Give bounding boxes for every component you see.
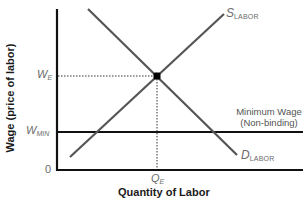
minimum-wage-annotation: Minimum Wage (Non-binding): [234, 106, 304, 128]
x-axis-title: Quantity of Labor: [118, 186, 210, 198]
equilibrium-quantity-label-main: Q: [151, 172, 160, 184]
demand-curve-label: DLABOR: [241, 148, 274, 162]
minimum-wage-annotation-line1: Minimum Wage: [234, 106, 304, 117]
demand-curve: [88, 9, 237, 155]
minimum-wage-annotation-line2: (Non-binding): [234, 117, 304, 128]
supply-curve-label: SLABOR: [226, 6, 259, 20]
y-axis-title: Wage (price of labor): [4, 38, 16, 158]
demand-curve-label-main: D: [241, 148, 250, 162]
equilibrium-point: [154, 73, 161, 80]
origin-label: 0: [45, 163, 51, 175]
equilibrium-wage-label: WE: [37, 68, 52, 81]
equilibrium-wage-label-sub: E: [47, 74, 52, 81]
supply-curve: [70, 14, 224, 157]
supply-curve-label-sub: LABOR: [234, 13, 259, 20]
minimum-wage-label: WMIN: [26, 124, 49, 137]
minimum-wage-label-sub: MIN: [36, 130, 49, 137]
demand-curve-label-sub: LABOR: [250, 155, 275, 162]
minimum-wage-label-main: W: [26, 124, 36, 136]
equilibrium-quantity-label-sub: E: [160, 178, 165, 185]
equilibrium-wage-label-main: W: [37, 68, 47, 80]
supply-curve-label-main: S: [226, 6, 234, 20]
equilibrium-quantity-label: QE: [151, 172, 164, 185]
